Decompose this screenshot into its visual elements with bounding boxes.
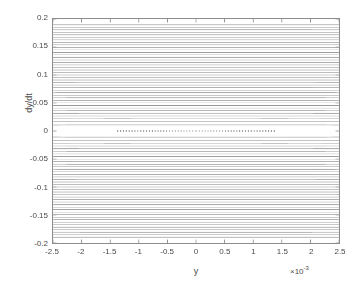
y-tick-label: 0.2 — [6, 14, 48, 22]
x-axis-exponent-base: ×10 — [290, 267, 304, 276]
y-tick-label: 0.15 — [6, 42, 48, 50]
y-tick-label: -0.15 — [6, 212, 48, 220]
plot-area — [52, 18, 340, 244]
x-axis-exponent: ×10-3 — [290, 265, 309, 276]
contour-plot-canvas — [53, 19, 339, 243]
y-tick-label: 0 — [6, 127, 48, 135]
phase-portrait-figure: dy/dt y ×10-3 -0.2-0.15-0.1-0.0500.050.1… — [0, 0, 356, 293]
x-axis-exponent-power: -3 — [304, 265, 309, 271]
y-tick-label: -0.1 — [6, 184, 48, 192]
y-tick-label: 0.1 — [6, 71, 48, 79]
y-tick-label: -0.05 — [6, 155, 48, 163]
x-tick-label: 2.5 — [320, 248, 356, 256]
y-tick-label: 0.05 — [6, 99, 48, 107]
y-tick-label: -0.2 — [6, 240, 48, 248]
